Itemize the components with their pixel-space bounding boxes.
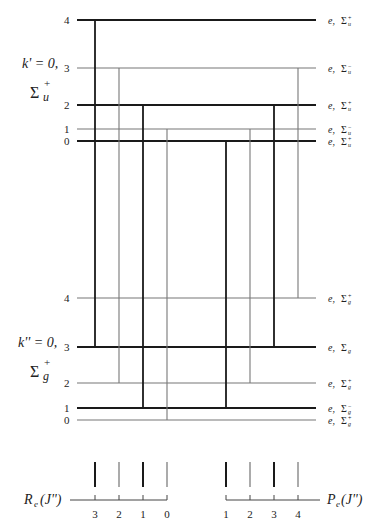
lower-sigma-sub: g [43,369,49,383]
p-branch-sub: e [336,499,340,509]
level-sigma-sub: g [348,299,351,305]
lower-level-1: 1e,Σ−g [64,402,352,415]
tick-label: 2 [116,508,122,520]
level-parity-label: e, [328,100,335,111]
lower-state-label: k'' = 0, Σ + g [18,335,57,383]
level-sigma-label: Σ [341,293,347,304]
level-j-label: 0 [64,135,70,147]
level-sigma-sub: u [348,106,351,112]
level-j-label: 0 [64,414,70,426]
level-j-label: 2 [64,377,70,389]
level-sigma-label: Σ [341,100,347,111]
level-sigma-label: Σ [341,415,347,426]
level-sigma-sub: u [348,21,351,27]
p-branch-axis: 1234 [223,462,320,520]
r-branch-label: R e (J'') [23,492,62,509]
lower-sigma-sup: + [44,356,50,368]
level-parity-label: e, [328,293,335,304]
level-sigma-sub: u [348,142,351,148]
upper-k-label: k' = 0, [22,56,58,71]
lower-level-2: 2e,Σ+g [64,377,352,390]
level-sigma-sub: g [348,384,351,390]
tick-label: 2 [247,508,253,520]
lower-level-0: 0e,Σ+g [64,414,352,427]
upper-level-2: 2e,Σ+u [64,99,352,112]
lower-sigma-symbol: Σ [30,363,39,380]
level-sigma-sub: g [348,421,351,427]
level-j-label: 1 [64,123,70,135]
level-parity-label: e, [328,136,335,147]
level-sigma-label: Σ [341,136,347,147]
tick-label: 3 [92,508,98,520]
upper-level-0: 0e,Σ+u [64,135,352,148]
energy-levels: 0e,Σ+u1e,Σ−u2e,Σ+u3e,Σ−u4e,Σ+u0e,Σ+g1e,Σ… [64,14,352,427]
upper-sigma-symbol: Σ [30,84,39,101]
level-parity-label: e, [328,415,335,426]
tick-label: 1 [140,508,146,520]
tick-label: 3 [271,508,277,520]
level-parity-label: e, [328,378,335,389]
level-sigma-label: Σ [341,378,347,389]
p-branch-label: P e (J'') [326,492,363,509]
level-parity-label: e, [328,63,335,74]
upper-sigma-sub: u [43,90,49,104]
level-parity-label: e, [328,403,335,414]
level-sigma-label: Σ [341,342,347,353]
level-j-label: 1 [64,402,70,414]
tick-label: 0 [164,508,170,520]
upper-sigma-sup: + [44,77,50,89]
level-sigma-sub: u [348,69,351,75]
level-sigma-label: Σ [341,15,347,26]
r-branch-arg: (J'') [40,492,62,508]
level-j-label: 4 [64,14,70,26]
level-sigma-sub: g [348,409,351,415]
upper-level-4: 4e,Σ+u [64,14,352,27]
level-sigma-label: Σ [341,403,347,414]
lower-level-4: 4e,Σ+g [64,292,352,305]
level-j-label: 4 [64,292,70,304]
level-sigma-label: Σ [341,124,347,135]
p-branch-main: P [326,492,336,507]
level-sigma-sub: g [348,348,351,354]
upper-level-3: 3e,Σ−u [64,62,352,75]
level-j-label: 2 [64,99,70,111]
level-parity-label: e, [328,15,335,26]
level-j-label: 3 [64,341,70,353]
level-j-label: 3 [64,62,70,74]
r-branch-sub: e [34,499,38,509]
tick-label: 1 [223,508,229,520]
lower-level-3: 3e,Σg [64,341,351,354]
level-parity-label: e, [328,342,335,353]
upper-state-label: k' = 0, Σ + u [22,56,58,104]
lower-k-label: k'' = 0, [18,335,57,350]
r-branch-axis: 3210 [70,462,170,520]
p-branch-arg: (J'') [341,492,363,508]
spectrum-axis: 32101234 [70,462,320,520]
level-parity-label: e, [328,124,335,135]
tick-label: 4 [295,508,301,520]
r-branch-main: R [23,492,33,507]
level-sigma-sub: u [348,130,351,136]
energy-level-diagram: k' = 0, Σ + u k'' = 0, Σ + g 0e,Σ+u1e,Σ−… [0,0,366,528]
level-sigma-label: Σ [341,63,347,74]
upper-level-1: 1e,Σ−u [64,123,352,136]
transition-lines [95,20,298,420]
